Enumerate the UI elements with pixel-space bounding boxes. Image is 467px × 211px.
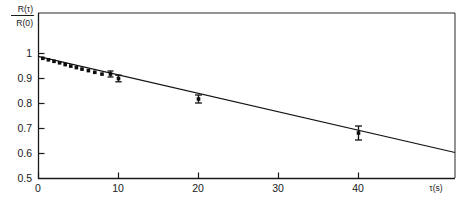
data-point bbox=[80, 67, 84, 71]
data-point bbox=[75, 66, 79, 70]
x-tick-label-10: 10 bbox=[112, 182, 124, 194]
data-series bbox=[41, 57, 362, 141]
plot-frame bbox=[38, 13, 455, 178]
fit-line bbox=[38, 56, 455, 152]
y-tick-label-0_9: 0.9 bbox=[17, 72, 32, 84]
data-point bbox=[41, 57, 45, 61]
data-point bbox=[63, 63, 67, 67]
y-axis-ticks bbox=[39, 54, 45, 154]
axes bbox=[38, 13, 455, 179]
data-point bbox=[93, 71, 97, 75]
y-tick-label-0_5: 0.5 bbox=[17, 172, 32, 184]
data-point bbox=[47, 58, 51, 62]
y-axis-label-numerator: R(τ) bbox=[18, 4, 33, 14]
figure-container: 1 0.9 0.8 0.7 0.6 0.5 0 10 20 30 40 τ(s) bbox=[0, 0, 467, 211]
data-point-with-error bbox=[115, 75, 121, 82]
data-point bbox=[100, 72, 104, 76]
data-point bbox=[109, 72, 113, 76]
data-point bbox=[117, 77, 121, 81]
y-tick-label-0_7: 0.7 bbox=[17, 122, 32, 134]
x-tick-label-30: 30 bbox=[272, 182, 284, 194]
data-point-with-error bbox=[355, 126, 362, 140]
y-tick-label-1: 1 bbox=[26, 47, 32, 59]
x-axis-tick-labels: 0 10 20 30 40 bbox=[35, 182, 364, 194]
x-axis-label: τ(s) bbox=[429, 183, 442, 193]
x-axis-ticks bbox=[39, 173, 359, 179]
y-tick-label-0_8: 0.8 bbox=[17, 97, 32, 109]
data-point-with-error bbox=[195, 95, 202, 103]
data-point bbox=[52, 60, 56, 64]
y-axis-tick-labels: 1 0.9 0.8 0.7 0.6 0.5 bbox=[17, 47, 32, 184]
data-point bbox=[58, 61, 62, 65]
y-axis-label: R(τ) R(0) bbox=[11, 4, 34, 28]
x-tick-label-20: 20 bbox=[192, 182, 204, 194]
data-point bbox=[69, 64, 73, 68]
data-point bbox=[87, 69, 91, 73]
decay-plot-svg: 1 0.9 0.8 0.7 0.6 0.5 0 10 20 30 40 τ(s) bbox=[0, 0, 467, 211]
y-axis-label-denominator: R(0) bbox=[16, 18, 33, 28]
data-point bbox=[357, 131, 361, 135]
x-tick-label-0: 0 bbox=[35, 182, 41, 194]
data-point bbox=[197, 97, 201, 101]
y-tick-label-0_6: 0.6 bbox=[17, 147, 32, 159]
x-tick-label-40: 40 bbox=[352, 182, 364, 194]
